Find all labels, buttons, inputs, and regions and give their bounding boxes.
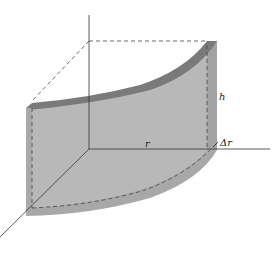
cylindrical-shell-diagram: h r Δr [0, 0, 280, 263]
shell-left-edge [26, 108, 32, 215]
shell-right-edge [207, 41, 217, 158]
label-h: h [219, 91, 225, 102]
label-delta-r: Δr [219, 137, 233, 148]
